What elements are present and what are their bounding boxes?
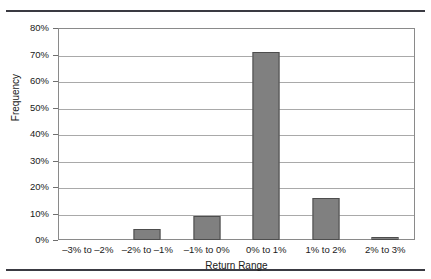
bar-slot <box>58 28 118 240</box>
y-tick-mark <box>53 240 58 241</box>
y-tick-label: 20% <box>5 182 49 192</box>
y-tick-label: 0% <box>5 235 49 245</box>
bar-slot <box>356 28 416 240</box>
y-tick-label: 10% <box>5 209 49 219</box>
bar-slot <box>237 28 297 240</box>
x-tick-label: 1% to 2% <box>296 244 356 255</box>
bar[interactable] <box>253 52 280 240</box>
y-axis-title: Frequency <box>10 38 21 158</box>
bar[interactable] <box>193 216 220 240</box>
y-tick-label: 80% <box>5 23 49 33</box>
clipped-caption <box>0 4 431 16</box>
x-tick-label: –1% to 0% <box>177 244 237 255</box>
bar-series <box>58 28 415 240</box>
x-tick-label: –3% to –2% <box>58 244 118 255</box>
bar-slot <box>118 28 178 240</box>
bar[interactable] <box>372 237 399 240</box>
bar[interactable] <box>134 229 161 240</box>
bar-chart-figure: 0%10%20%30%40%50%60%70%80% Frequency –3%… <box>0 12 431 268</box>
x-tick-label: –2% to –1% <box>118 244 178 255</box>
bar[interactable] <box>312 198 339 240</box>
bar-slot <box>296 28 356 240</box>
x-axis-title: Return Range <box>58 260 415 271</box>
x-tick-label: 0% to 1% <box>237 244 297 255</box>
x-tick-label: 2% to 3% <box>356 244 416 255</box>
bar-slot <box>177 28 237 240</box>
